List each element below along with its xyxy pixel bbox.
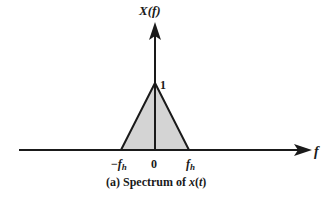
tick-zero: 0 [151,157,157,171]
x-axis-label: f [314,144,320,159]
tick-pos-fh: fh [186,157,195,172]
tick-neg-fh: −fh [111,157,127,172]
y-axis-label: X(f) [138,3,161,18]
peak-value-label: 1 [160,78,166,92]
caption: (a) Spectrum of x(t) [106,175,206,189]
spectrum-diagram: X(f) 1 f −fh 0 fh (a) Spectrum of x(t) [0,0,327,197]
